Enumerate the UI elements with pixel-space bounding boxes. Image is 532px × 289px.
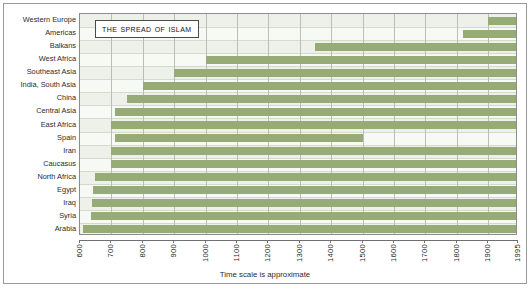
- x-axis-tick-label: 900: [169, 244, 178, 258]
- x-axis-tick-label: 700: [106, 244, 115, 258]
- x-axis-tick: [456, 240, 457, 243]
- horizontal-gridline: [80, 145, 516, 146]
- x-axis-tick: [330, 240, 331, 243]
- horizontal-gridline: [80, 223, 516, 224]
- x-axis-tick-label: 1600: [389, 244, 398, 262]
- bar: [115, 134, 363, 142]
- category-label: Western Europe: [23, 15, 76, 24]
- bar: [95, 173, 517, 181]
- bar: [111, 121, 517, 129]
- bar: [127, 95, 517, 103]
- bar: [463, 30, 517, 38]
- x-axis-line: [79, 240, 517, 241]
- chart-title: The Spread of Islam: [95, 20, 199, 38]
- x-axis-tick: [205, 240, 206, 243]
- category-label: Caucasus: [43, 159, 76, 168]
- bar: [488, 17, 517, 25]
- category-label: Central Asia: [36, 106, 76, 115]
- horizontal-gridline: [80, 132, 516, 133]
- x-axis-tick-label: 1100: [232, 244, 241, 262]
- x-axis-tick: [487, 240, 488, 243]
- bar: [315, 43, 517, 51]
- x-axis-tick-label: 1995: [513, 244, 522, 262]
- horizontal-gridline: [80, 79, 516, 80]
- horizontal-gridline: [80, 197, 516, 198]
- bar: [111, 160, 517, 168]
- horizontal-gridline: [80, 210, 516, 211]
- horizontal-gridline: [80, 40, 516, 41]
- category-label: Syria: [59, 211, 76, 220]
- x-axis-tick: [236, 240, 237, 243]
- chart-frame: Western EuropeAmericasBalkansWest Africa…: [3, 3, 527, 284]
- x-axis-tick: [142, 240, 143, 243]
- bar: [93, 186, 517, 194]
- bar: [92, 199, 517, 207]
- category-label: Spain: [57, 133, 76, 142]
- category-label: Americas: [45, 28, 76, 37]
- x-axis-tick-label: 1500: [358, 244, 367, 262]
- x-axis-tick-label: 800: [138, 244, 147, 258]
- x-axis-tick: [79, 240, 80, 243]
- x-axis-tick-label: 1400: [326, 244, 335, 262]
- x-axis-tick-label: 1700: [420, 244, 429, 262]
- horizontal-gridline: [80, 158, 516, 159]
- x-axis-tick: [393, 240, 394, 243]
- category-label: India, South Asia: [21, 80, 76, 89]
- bar: [174, 69, 517, 77]
- x-axis-tick: [173, 240, 174, 243]
- bar: [111, 147, 517, 155]
- x-axis-tick: [110, 240, 111, 243]
- horizontal-gridline: [80, 66, 516, 67]
- bar: [83, 225, 517, 233]
- horizontal-gridline: [80, 171, 516, 172]
- category-label: Iraq: [63, 198, 76, 207]
- category-label: Southeast Asia: [27, 67, 76, 76]
- x-axis-tick: [267, 240, 268, 243]
- x-axis-tick: [362, 240, 363, 243]
- bar: [115, 108, 517, 116]
- category-label: Iran: [63, 146, 76, 155]
- category-label: Egypt: [57, 185, 76, 194]
- horizontal-gridline: [80, 184, 516, 185]
- horizontal-gridline: [80, 53, 516, 54]
- category-label: East Africa: [41, 120, 76, 129]
- x-axis-tick-label: 1900: [483, 244, 492, 262]
- category-axis: Western EuropeAmericasBalkansWest Africa…: [8, 13, 76, 235]
- x-axis-tick: [424, 240, 425, 243]
- category-label: Arabia: [55, 224, 76, 233]
- bar: [206, 56, 517, 64]
- category-label: China: [57, 93, 76, 102]
- x-axis-tick-label: 1000: [201, 244, 210, 262]
- category-label: Balkans: [50, 41, 76, 50]
- horizontal-gridline: [80, 105, 516, 106]
- x-axis-tick-label: 600: [75, 244, 84, 258]
- bar: [143, 82, 517, 90]
- horizontal-gridline: [80, 92, 516, 93]
- horizontal-gridline: [80, 118, 516, 119]
- x-axis-tick: [517, 240, 518, 243]
- bar: [91, 212, 517, 220]
- x-axis-tick-label: 1200: [263, 244, 272, 262]
- x-axis-tick: [299, 240, 300, 243]
- category-label: North Africa: [37, 172, 76, 181]
- x-axis-caption: Time scale is approximate: [4, 270, 526, 279]
- x-axis-tick-label: 1300: [295, 244, 304, 262]
- plot-area: [79, 13, 517, 235]
- x-axis-tick-label: 1800: [452, 244, 461, 262]
- category-label: West Africa: [39, 54, 76, 63]
